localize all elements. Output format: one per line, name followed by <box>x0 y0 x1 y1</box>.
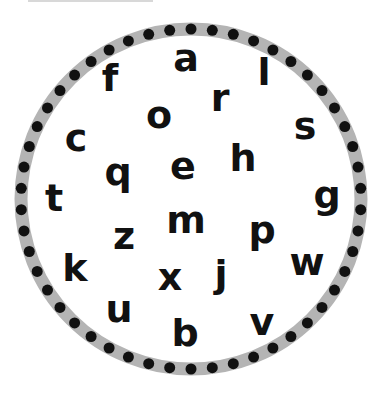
dot-icon <box>267 343 278 354</box>
letter-m[interactable]: m <box>166 201 206 239</box>
dot-icon <box>143 358 154 369</box>
letter-f[interactable]: f <box>102 59 119 97</box>
dot-icon <box>285 331 296 342</box>
dot-icon <box>186 364 197 375</box>
dot-icon <box>248 35 259 46</box>
dot-icon <box>353 225 364 236</box>
dot-icon <box>104 343 115 354</box>
dot-icon <box>355 204 366 215</box>
letter-x[interactable]: x <box>158 258 183 296</box>
dot-icon <box>55 85 66 96</box>
dot-icon <box>347 141 358 152</box>
dot-icon <box>104 45 115 56</box>
letter-e[interactable]: e <box>170 147 196 185</box>
dot-icon <box>207 362 218 373</box>
dot-icon <box>32 121 43 132</box>
dot-icon <box>228 29 239 40</box>
letter-k[interactable]: k <box>62 249 87 287</box>
dot-icon <box>42 285 53 296</box>
dot-icon <box>353 162 364 173</box>
letter-a[interactable]: a <box>173 39 199 77</box>
letter-w[interactable]: w <box>289 243 324 281</box>
letter-c[interactable]: c <box>65 119 88 157</box>
dot-icon <box>86 331 97 342</box>
letter-p[interactable]: p <box>248 211 275 249</box>
dot-icon <box>32 266 43 277</box>
letter-l[interactable]: l <box>257 53 270 91</box>
dot-icon <box>347 246 358 257</box>
dot-icon <box>207 25 218 36</box>
dot-icon <box>329 102 340 113</box>
dot-icon <box>339 121 350 132</box>
dot-icon <box>355 183 366 194</box>
dot-icon <box>164 25 175 36</box>
dot-icon <box>69 317 80 328</box>
letter-t[interactable]: t <box>45 179 63 217</box>
dot-icon <box>329 285 340 296</box>
dot-icon <box>16 183 27 194</box>
letter-r[interactable]: r <box>211 79 230 117</box>
dot-icon <box>69 70 80 81</box>
dot-icon <box>19 225 30 236</box>
letter-u[interactable]: u <box>105 290 132 328</box>
dot-icon <box>248 352 259 363</box>
dot-icon <box>24 141 35 152</box>
dot-icon <box>164 362 175 373</box>
dot-icon <box>19 162 30 173</box>
letter-h[interactable]: h <box>229 139 256 177</box>
dot-icon <box>16 204 27 215</box>
dot-icon <box>228 358 239 369</box>
letter-q[interactable]: q <box>104 153 131 191</box>
dot-icon <box>86 56 97 67</box>
dot-icon <box>339 266 350 277</box>
letter-j[interactable]: j <box>214 255 227 293</box>
dot-icon <box>24 246 35 257</box>
dot-icon <box>186 24 197 35</box>
dot-icon <box>42 102 53 113</box>
letter-s[interactable]: s <box>294 107 317 145</box>
letter-z[interactable]: z <box>113 217 135 255</box>
dot-icon <box>123 35 134 46</box>
dot-icon <box>55 302 66 313</box>
dot-icon <box>123 352 134 363</box>
letter-o[interactable]: o <box>146 96 172 134</box>
dot-icon <box>317 302 328 313</box>
letter-g[interactable]: g <box>313 176 340 214</box>
dot-icon <box>317 85 328 96</box>
dot-icon <box>302 317 313 328</box>
letter-b[interactable]: b <box>171 314 198 352</box>
dot-icon <box>143 29 154 40</box>
dot-icon <box>285 56 296 67</box>
dot-icon <box>302 70 313 81</box>
letter-v[interactable]: v <box>250 303 275 341</box>
